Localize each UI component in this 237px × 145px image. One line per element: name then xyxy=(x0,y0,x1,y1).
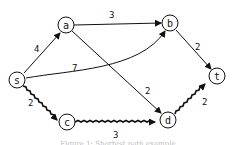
weight-d-t: 2 xyxy=(202,97,207,107)
node-s: s xyxy=(9,72,25,88)
node-label: c xyxy=(64,117,70,128)
edge-b-t xyxy=(176,30,211,69)
edge-s-a xyxy=(24,33,60,73)
edge-d-t xyxy=(175,84,205,114)
edge-c-d xyxy=(75,121,155,123)
node-label: t xyxy=(214,71,220,82)
edge-a-b xyxy=(74,23,161,25)
weight-c-d: 3 xyxy=(113,130,118,140)
weight-s-c: 2 xyxy=(28,98,33,108)
weight-a-b: 3 xyxy=(109,10,114,20)
node-label: s xyxy=(14,75,20,86)
node-c: c xyxy=(59,114,75,130)
node-a: a xyxy=(58,17,74,33)
edge-s-b xyxy=(26,31,165,78)
node-b: b xyxy=(162,15,178,31)
edge-a-d xyxy=(72,31,161,113)
weight-a-d: 2 xyxy=(145,86,150,96)
node-label: d xyxy=(165,115,171,126)
node-label: a xyxy=(63,20,69,31)
weight-s-a: 4 xyxy=(34,44,39,54)
node-label: b xyxy=(167,18,173,29)
weight-b-t: 2 xyxy=(195,42,200,52)
node-t: t xyxy=(209,68,225,84)
graph-diagram: 4 3 7 2 2 2 3 2 s a b t c d Figure 1: Sh… xyxy=(0,0,237,145)
node-d: d xyxy=(160,112,176,128)
figure-caption: Figure 1: Shortest path example xyxy=(60,140,175,145)
weight-s-b: 7 xyxy=(72,63,77,73)
